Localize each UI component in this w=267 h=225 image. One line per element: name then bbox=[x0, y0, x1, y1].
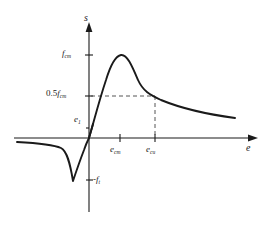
compressive-branch-curve bbox=[89, 55, 235, 138]
ultimate-strain-label: ecu bbox=[146, 145, 155, 154]
chart-canvas bbox=[0, 0, 267, 225]
tensile-branch-curve bbox=[17, 124, 93, 181]
peak-strain-sub: cm bbox=[114, 149, 121, 155]
stress-strain-figure: s e fcm 0.5fcm e1 -ft ecm ecu bbox=[0, 0, 267, 225]
peak-stress-sub: cm bbox=[65, 53, 72, 59]
x-axis-label: e bbox=[246, 143, 250, 153]
tensile-strength-sub: t bbox=[99, 179, 101, 185]
half-peak-prefix: 0.5 bbox=[46, 88, 57, 98]
tensile-strain-label: e1 bbox=[74, 115, 81, 124]
x-axis-arrowhead bbox=[248, 135, 258, 142]
ultimate-strain-sub: cu bbox=[150, 149, 155, 155]
peak-stress-label: fcm bbox=[62, 49, 71, 58]
x-axis bbox=[14, 135, 258, 142]
half-peak-sub: cm bbox=[60, 93, 67, 99]
half-peak-stress-label: 0.5fcm bbox=[46, 89, 66, 98]
tensile-strength-label: -ft bbox=[93, 175, 100, 184]
tensile-strain-sub: 1 bbox=[78, 119, 81, 125]
y-axis-arrowhead bbox=[86, 22, 93, 32]
guide-lines bbox=[91, 96, 155, 136]
peak-strain-label: ecm bbox=[110, 145, 121, 154]
y-axis-label: s bbox=[84, 13, 88, 23]
y-axis bbox=[86, 22, 93, 212]
